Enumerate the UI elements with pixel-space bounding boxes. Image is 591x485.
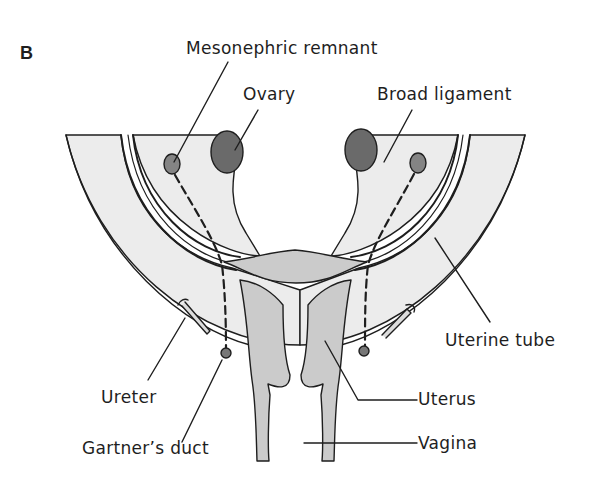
label-gartners-duct: Gartner’s duct: [82, 440, 209, 457]
left-mesonephric-remnant: [164, 154, 180, 174]
left-ovary: [211, 131, 243, 173]
label-ovary: Ovary: [243, 86, 295, 103]
label-ureter: Ureter: [101, 389, 156, 406]
label-broad-ligament: Broad ligament: [377, 86, 512, 103]
anatomy-diagram: B Mesonephric remnant Ovary Broad ligame…: [0, 0, 591, 485]
label-vagina: Vagina: [418, 435, 477, 452]
panel-label: B: [20, 44, 33, 62]
right-mesonephric-remnant: [410, 153, 426, 173]
label-uterus: Uterus: [418, 391, 476, 408]
right-ovary: [345, 129, 377, 171]
uterus-left: [240, 280, 290, 461]
label-mesonephric-remnant: Mesonephric remnant: [186, 40, 378, 57]
right-gartners-dot: [359, 346, 369, 356]
diagram-artwork: [0, 0, 591, 485]
label-uterine-tube: Uterine tube: [445, 332, 555, 349]
left-gartners-dot: [221, 348, 231, 358]
uterus-right: [301, 280, 351, 461]
